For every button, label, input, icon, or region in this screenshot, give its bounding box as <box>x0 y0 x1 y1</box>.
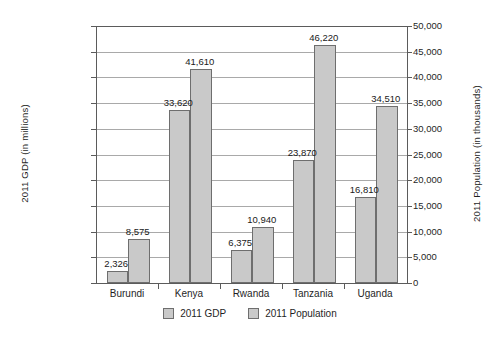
bar-value-label: 23,870 <box>280 148 324 158</box>
y-axis-right-tick-label: 30,000 <box>413 124 483 134</box>
bar-value-label: 46,220 <box>302 33 346 43</box>
legend-swatch-icon <box>163 308 174 319</box>
gridline <box>97 103 407 104</box>
bar-value-label: 2,326 <box>94 259 138 269</box>
x-axis-category-label: Burundi <box>92 288 162 299</box>
bar-burundi-gdp <box>107 271 129 283</box>
y-axis-right-tick-label: 50,000 <box>413 21 483 31</box>
x-axis-category-label: Tanzania <box>278 288 348 299</box>
y-axis-right-tick-label: 20,000 <box>413 175 483 185</box>
y-axis-left-title: 2011 GDP (in millions) <box>19 69 30 239</box>
x-axis-tick-mark <box>344 284 345 289</box>
y-axis-right-tick-label: 5,000 <box>413 252 483 262</box>
x-axis-tick-mark <box>220 284 221 289</box>
gridline <box>97 155 407 156</box>
bar-uganda-gdp <box>355 197 377 283</box>
bar-rwanda-gdp <box>231 250 253 283</box>
gridline <box>97 26 407 27</box>
y-axis-right-tick-label: 40,000 <box>413 72 483 82</box>
y-axis-right-tick-label: 10,000 <box>413 227 483 237</box>
bar-value-label: 33,620 <box>156 98 200 108</box>
bar-kenya-gdp <box>169 110 191 283</box>
legend-item-gdp[interactable]: 2011 GDP <box>163 308 226 319</box>
gridline <box>97 180 407 181</box>
x-axis-category-label: Uganda <box>340 288 410 299</box>
legend-label: 2011 GDP <box>180 308 226 319</box>
bar-chart: 2011 GDP (in millions) 2011 Population (… <box>0 0 500 339</box>
gridline <box>97 129 407 130</box>
legend-item-population[interactable]: 2011 Population <box>248 308 337 319</box>
bar-value-label: 34,510 <box>364 94 408 104</box>
x-axis-category-label: Rwanda <box>216 288 286 299</box>
gridline <box>97 52 407 53</box>
chart-legend: 2011 GDP2011 Population <box>0 308 500 319</box>
y-axis-right-tick-label: 45,000 <box>413 47 483 57</box>
bar-value-label: 10,940 <box>240 215 284 225</box>
x-axis-tick-mark <box>158 284 159 289</box>
x-axis-category-label: Kenya <box>154 288 224 299</box>
bar-rwanda-population <box>252 227 274 283</box>
x-axis-tick-mark <box>282 284 283 289</box>
bar-tanzania-population <box>314 45 336 283</box>
bar-uganda-population <box>376 106 398 283</box>
y-axis-right-tick-label: 0 <box>413 278 483 288</box>
bar-tanzania-gdp <box>293 160 315 283</box>
y-axis-right-tick-label: 35,000 <box>413 98 483 108</box>
bar-value-label: 41,610 <box>178 57 222 67</box>
bar-value-label: 8,575 <box>116 227 160 237</box>
legend-label: 2011 Population <box>265 308 337 319</box>
gridline <box>97 77 407 78</box>
y-axis-right-tick-label: 25,000 <box>413 150 483 160</box>
bar-value-label: 6,375 <box>218 238 262 248</box>
y-axis-right-tick-label: 15,000 <box>413 201 483 211</box>
legend-swatch-icon <box>248 308 259 319</box>
bar-value-label: 16,810 <box>342 185 386 195</box>
